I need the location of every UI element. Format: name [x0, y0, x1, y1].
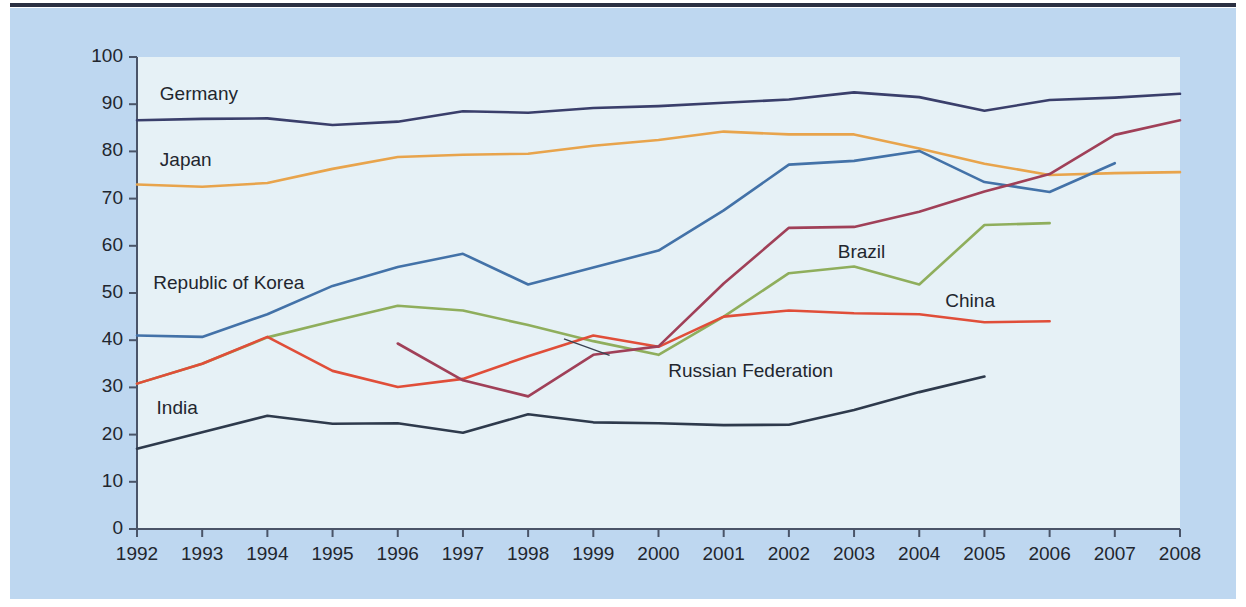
annotation-leader-layer	[564, 339, 610, 356]
x-tick-label: 2008	[1149, 543, 1211, 565]
series-label-russian-federation: Russian Federation	[668, 360, 833, 382]
series-line-india	[137, 377, 984, 449]
y-tick-label: 50	[75, 281, 123, 303]
x-tick-label: 2003	[823, 543, 885, 565]
series-label-india: India	[157, 397, 198, 419]
x-tick-label: 1997	[432, 543, 494, 565]
y-tick-label: 10	[75, 470, 123, 492]
y-tick-label: 70	[75, 187, 123, 209]
x-tick-label: 2004	[888, 543, 950, 565]
x-tick-label: 2005	[953, 543, 1015, 565]
series-label-brazil: Brazil	[838, 241, 886, 263]
x-tick-label: 1995	[302, 543, 364, 565]
x-tick-label: 1994	[236, 543, 298, 565]
x-tick-label: 2002	[758, 543, 820, 565]
leader-line-russian-federation	[564, 339, 610, 356]
x-tick-label: 1992	[106, 543, 168, 565]
x-tick-label: 1996	[367, 543, 429, 565]
series-label-china: China	[945, 290, 995, 312]
series-label-germany: Germany	[160, 83, 238, 105]
y-tick-label: 90	[75, 92, 123, 114]
x-tick-label: 1999	[562, 543, 624, 565]
y-tick-label: 100	[75, 45, 123, 67]
series-line-brazil	[137, 223, 1050, 383]
x-tick-label: 1998	[497, 543, 559, 565]
y-tick-label: 20	[75, 423, 123, 445]
axes-layer	[129, 57, 1180, 537]
series-line-germany	[137, 92, 1180, 125]
x-tick-label: 2007	[1084, 543, 1146, 565]
x-tick-label: 1993	[171, 543, 233, 565]
y-tick-label: 80	[75, 139, 123, 161]
y-tick-label: 40	[75, 328, 123, 350]
series-label-republic-of-korea: Republic of Korea	[153, 272, 304, 294]
x-tick-label: 2000	[628, 543, 690, 565]
x-tick-label: 2006	[1019, 543, 1081, 565]
series-line-russian-federation	[398, 120, 1180, 396]
series-label-japan: Japan	[160, 149, 212, 171]
y-tick-label: 0	[75, 517, 123, 539]
series-line-japan	[137, 132, 1180, 187]
chart-figure: 0102030405060708090100 19921993199419951…	[0, 0, 1246, 607]
x-tick-label: 2001	[693, 543, 755, 565]
y-tick-label: 30	[75, 375, 123, 397]
y-tick-label: 60	[75, 234, 123, 256]
